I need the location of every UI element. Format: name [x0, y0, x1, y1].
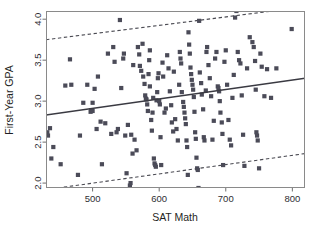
data-point — [204, 50, 208, 54]
data-point — [220, 120, 224, 124]
data-point — [185, 145, 189, 149]
data-point — [225, 83, 229, 87]
data-point — [118, 18, 122, 22]
data-point — [112, 60, 116, 64]
data-point — [222, 60, 226, 64]
data-point — [93, 87, 97, 91]
y-tick-label: 2.0 — [32, 176, 43, 189]
data-point — [257, 166, 261, 170]
data-point — [255, 133, 259, 137]
data-point — [230, 96, 234, 100]
data-point — [146, 72, 150, 76]
data-point — [141, 74, 145, 78]
data-point — [131, 63, 135, 67]
data-point — [194, 156, 198, 160]
data-point — [142, 82, 146, 86]
data-point — [214, 50, 218, 54]
data-point — [98, 120, 102, 124]
data-point — [81, 101, 85, 105]
data-point — [176, 138, 180, 142]
y-tick-label: 2.5 — [32, 136, 43, 149]
data-point — [186, 173, 190, 177]
data-point — [206, 63, 210, 67]
data-point — [262, 94, 266, 98]
data-point — [221, 163, 225, 167]
data-point — [137, 52, 141, 56]
data-point — [166, 66, 170, 70]
data-point — [174, 127, 178, 131]
data-point — [252, 45, 256, 49]
scatter-plot-figure: 500600700800 2.02.53.03.54.0 SAT Math Fi… — [0, 0, 319, 234]
data-point — [198, 70, 202, 74]
data-point — [150, 129, 154, 133]
data-point — [213, 56, 217, 60]
data-point — [134, 148, 138, 152]
data-point — [190, 78, 194, 82]
data-point — [188, 52, 192, 56]
data-point — [96, 74, 100, 78]
data-point — [233, 15, 237, 19]
data-point — [165, 53, 169, 57]
data-point — [186, 30, 190, 34]
data-point — [236, 50, 240, 54]
data-point — [189, 72, 193, 76]
data-point — [156, 71, 160, 75]
data-point — [63, 83, 67, 87]
data-point — [111, 45, 115, 49]
data-point — [290, 27, 294, 31]
data-point — [173, 117, 177, 121]
data-point — [192, 95, 196, 99]
data-point — [218, 111, 222, 115]
data-point — [178, 56, 182, 60]
data-point — [129, 133, 133, 137]
data-point — [85, 83, 89, 87]
data-point — [229, 143, 233, 147]
data-point — [51, 145, 55, 149]
data-point — [218, 99, 222, 103]
data-point — [91, 109, 95, 113]
y-tick-label: 4.0 — [32, 13, 43, 26]
data-point — [182, 111, 186, 115]
data-point — [149, 118, 153, 122]
data-point — [250, 40, 254, 44]
data-point — [106, 52, 110, 56]
data-point — [59, 162, 63, 166]
data-point — [205, 45, 209, 49]
data-point — [156, 76, 160, 80]
data-point — [148, 48, 152, 52]
data-point — [188, 65, 192, 69]
data-point — [245, 66, 249, 70]
data-point — [190, 83, 194, 87]
data-point — [116, 127, 120, 131]
data-point — [139, 69, 143, 73]
x-tick-label: 700 — [218, 193, 234, 204]
data-point — [178, 50, 182, 54]
data-point — [158, 135, 162, 139]
data-point — [100, 162, 104, 166]
y-axis-title: First-Year GPA — [3, 65, 15, 134]
data-point — [119, 86, 123, 90]
data-point — [184, 122, 188, 126]
data-point — [158, 102, 162, 106]
data-point — [187, 42, 191, 46]
data-point — [172, 70, 176, 74]
data-point — [232, 73, 236, 77]
data-point — [228, 138, 232, 142]
data-point — [241, 133, 245, 137]
data-point — [145, 102, 149, 106]
y-tick-label: 3.0 — [32, 95, 43, 108]
x-tick-label: 800 — [284, 193, 300, 204]
data-point — [192, 110, 196, 114]
data-point — [238, 61, 242, 65]
data-point — [191, 88, 195, 92]
data-point — [68, 57, 72, 61]
data-point — [164, 106, 168, 110]
data-point — [202, 138, 206, 142]
data-point — [130, 151, 134, 155]
x-tick-label: 600 — [151, 193, 167, 204]
data-point — [169, 103, 173, 107]
data-point — [168, 89, 172, 93]
data-point — [162, 111, 166, 115]
data-point — [224, 48, 228, 52]
data-point — [199, 81, 203, 85]
